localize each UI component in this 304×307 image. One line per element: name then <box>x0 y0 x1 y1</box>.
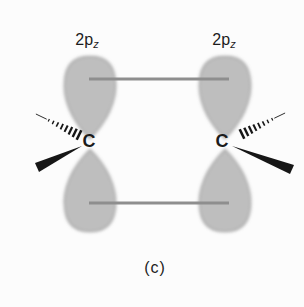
orbital-label-left: 2pz <box>75 31 98 49</box>
orbital-label-left-main: 2p <box>75 31 93 48</box>
orbital-label-right-main: 2p <box>212 31 230 48</box>
figure-caption: (c) <box>144 259 166 277</box>
carbon-atom-label-left: C <box>83 131 96 152</box>
orbital-label-right: 2pz <box>212 31 235 49</box>
pi-bond-orbital-diagram: 2pz 2pz C C (c) <box>0 0 304 307</box>
carbon-atom-label-right: C <box>216 131 229 152</box>
p-orbital-left-upper-lobe <box>64 56 116 139</box>
p-orbital-right-lower-lobe <box>199 149 251 232</box>
p-orbital-right-upper-lobe <box>199 56 251 139</box>
hashed-wedge-bond-right <box>240 113 285 139</box>
orbital-label-right-subscript: z <box>230 38 236 50</box>
orbital-label-left-subscript: z <box>93 38 99 50</box>
p-orbital-left-lower-lobe <box>64 149 116 232</box>
